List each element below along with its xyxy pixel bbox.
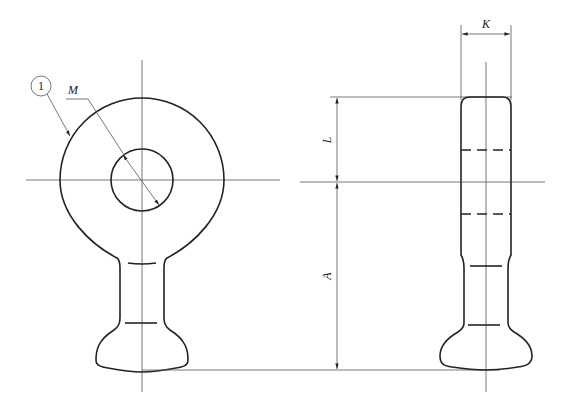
dim-m-leader bbox=[66, 99, 126, 158]
dim-label-m: M bbox=[67, 83, 79, 97]
side-view: K bbox=[440, 17, 532, 392]
callout-number: 1 bbox=[38, 79, 44, 93]
vertical-dimensions: L A bbox=[142, 97, 545, 370]
front-view: 1 M bbox=[26, 60, 280, 392]
dim-label-a: A bbox=[320, 272, 334, 281]
callout-leader bbox=[47, 94, 70, 136]
dim-label-k: K bbox=[481, 17, 491, 31]
dim-label-l: L bbox=[320, 136, 334, 144]
technical-drawing: 1 M L A K bbox=[0, 0, 565, 410]
